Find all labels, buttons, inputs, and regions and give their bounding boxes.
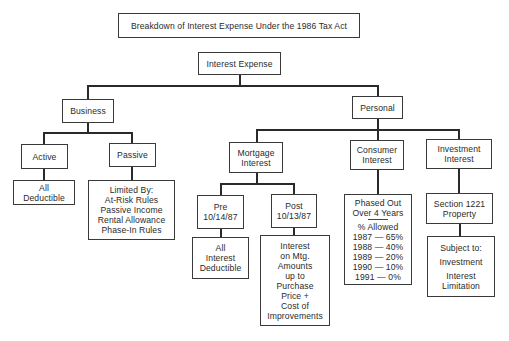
detail-line: Passive Income — [100, 205, 162, 215]
node-business: Business — [62, 99, 114, 123]
detail-line: Interest — [280, 241, 309, 251]
node-label: Personal — [360, 103, 395, 113]
node-section-1221-property: Section 1221 Property — [426, 193, 493, 224]
node-label: Investment — [437, 144, 480, 154]
node-consumer-interest: Consumer Interest — [350, 140, 404, 170]
connector — [43, 132, 45, 144]
node-passive: Passive — [109, 143, 156, 167]
connector — [459, 224, 461, 236]
connector — [220, 229, 222, 237]
connector — [131, 167, 133, 180]
node-investment-interest: Investment Interest — [426, 139, 492, 169]
node-label: 10/14/87 — [203, 212, 237, 222]
node-investment-detail: Subject to: Investment Interest Limitati… — [427, 236, 495, 297]
detail-line: Deductible — [200, 263, 242, 273]
connector — [256, 129, 258, 142]
detail-line: At-Risk Rules — [105, 195, 158, 205]
detail-line: Purchase — [276, 281, 313, 291]
connector — [87, 85, 89, 99]
schedule-line: 1991 — 0% — [355, 272, 401, 282]
node-interest-expense: Interest Expense — [198, 52, 281, 75]
node-label: Interest Expense — [206, 59, 272, 69]
node-label: Business — [70, 106, 106, 116]
detail-line: up to — [285, 271, 305, 281]
node-mortgage-interest: Mortgage Interest — [229, 142, 283, 173]
node-passive-detail: Limited By: At-Risk Rules Passive Income… — [88, 180, 175, 240]
detail-line: Over 4 Years — [353, 208, 404, 218]
allowed-label: % Allowed — [358, 222, 399, 232]
divider — [368, 219, 388, 220]
node-pre-detail: All Interest Deductible — [192, 237, 249, 279]
node-label: Interest — [362, 155, 391, 165]
connector — [458, 129, 460, 139]
connector — [87, 85, 379, 87]
detail-line: Limitation — [442, 281, 480, 291]
node-label: Pre — [214, 202, 228, 212]
node-label: Interest — [241, 158, 270, 168]
node-label: Passive — [117, 150, 148, 160]
detail-line: Price + — [281, 291, 309, 301]
node-label: Mortgage — [237, 148, 274, 158]
title-text: Breakdown of Interest Expense Under the … — [131, 21, 347, 31]
detail-line: All — [39, 183, 49, 193]
detail-line: Interest — [446, 271, 475, 281]
detail-line: Phased Out — [355, 198, 401, 208]
connector — [220, 183, 222, 195]
node-post-detail: Interest on Mtg. Amounts up to Purchase … — [260, 235, 330, 326]
detail-line: Subject to: — [440, 243, 482, 253]
diagram-title: Breakdown of Interest Expense Under the … — [118, 13, 360, 38]
detail-line: Deductible — [23, 193, 65, 203]
node-personal: Personal — [352, 96, 403, 119]
detail-line: Limited By: — [110, 185, 154, 195]
node-label: Section 1221 — [434, 199, 485, 209]
detail-line: Phase-In Rules — [101, 225, 161, 235]
connector — [293, 228, 295, 235]
node-consumer-detail: Phased Out Over 4 Years % Allowed 1987 —… — [344, 194, 412, 285]
schedule-line: 1988 — 40% — [353, 242, 404, 252]
detail-line: Improvements — [267, 311, 323, 321]
schedule-line: 1987 — 65% — [353, 232, 404, 242]
schedule-line: 1989 — 20% — [353, 252, 404, 262]
detail-line: All — [216, 243, 226, 253]
connector — [220, 183, 295, 185]
node-pre-10-14-87: Pre 10/14/87 — [197, 195, 244, 229]
connector — [293, 183, 295, 194]
connector — [43, 132, 133, 134]
detail-line: Rental Allowance — [98, 215, 166, 225]
node-label: Interest — [444, 154, 473, 164]
node-active-detail: All Deductible — [13, 180, 75, 205]
node-label: 10/13/87 — [277, 211, 311, 221]
detail-line: Cost of — [281, 301, 309, 311]
node-label: Post — [285, 201, 303, 211]
schedule-line: 1990 — 10% — [353, 262, 404, 272]
detail-line: Amounts — [278, 261, 313, 271]
node-post-10-13-87: Post 10/13/87 — [271, 194, 317, 228]
node-label: Property — [443, 209, 476, 219]
connector — [458, 169, 460, 193]
detail-line: Investment — [439, 257, 482, 267]
node-label: Active — [32, 152, 56, 162]
detail-line: Interest — [206, 253, 235, 263]
node-active: Active — [21, 144, 68, 169]
connector — [256, 129, 460, 131]
detail-line: on Mtg. — [280, 251, 309, 261]
connector — [377, 170, 379, 194]
node-label: Consumer — [357, 145, 397, 155]
connector — [377, 85, 379, 96]
connector — [131, 132, 133, 143]
connector — [43, 169, 45, 180]
